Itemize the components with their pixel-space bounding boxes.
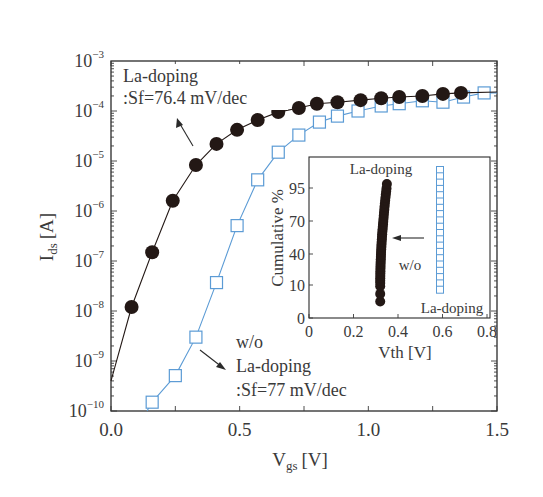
x-tick-label: 0.0 bbox=[99, 419, 123, 440]
y-tick-label: 10−7 bbox=[74, 248, 104, 271]
chart: 10−310−410−510−610−710−810−910−10 0.00.5… bbox=[0, 0, 543, 497]
data-point bbox=[230, 123, 244, 137]
inset-label-mid: w/o bbox=[399, 257, 422, 273]
inset-y-tick-label: 10 bbox=[289, 277, 305, 294]
inset-y-tick-label: 95 bbox=[289, 180, 305, 197]
y-tick-label: 10−8 bbox=[74, 298, 104, 321]
data-point bbox=[330, 95, 344, 109]
data-point bbox=[145, 245, 159, 259]
data-point bbox=[210, 137, 224, 151]
data-point bbox=[392, 90, 406, 104]
inset-y-tick-label: 40 bbox=[289, 246, 305, 263]
data-point bbox=[331, 110, 343, 122]
y-tick-label: 10−10 bbox=[69, 398, 105, 421]
y-tick-label: 10−9 bbox=[74, 348, 104, 371]
x-tick-label: 1.5 bbox=[485, 419, 509, 440]
svg-text:La-doping: La-doping bbox=[123, 66, 198, 86]
y-tick-label: 10−3 bbox=[74, 48, 104, 71]
y-axis-tick-labels: 10−310−410−510−610−710−810−910−10 bbox=[69, 48, 105, 421]
inset-label-top: La-doping bbox=[350, 161, 413, 177]
x-axis-tick-labels: 0.00.51.01.5 bbox=[99, 419, 509, 440]
data-point bbox=[190, 331, 202, 343]
data-point bbox=[231, 220, 243, 232]
inset-chart: 00.20.40.60.8 010407095 Vth [V] Cumulati… bbox=[268, 157, 497, 362]
annotation-la-doping: La-doping :Sf=76.4 mV/dec bbox=[118, 64, 288, 110]
data-point bbox=[415, 89, 429, 103]
data-point bbox=[436, 87, 450, 101]
data-point bbox=[354, 93, 368, 107]
annotation-wo-la-doping: w/o La-doping :Sf=77 mV/dec bbox=[236, 332, 347, 400]
arrow-la-doping-icon bbox=[176, 118, 193, 146]
data-point bbox=[169, 370, 181, 382]
data-point bbox=[293, 129, 305, 141]
x-tick-label: 0.5 bbox=[228, 419, 252, 440]
arrow-wo-la-doping-icon bbox=[200, 350, 226, 370]
svg-text:w/o: w/o bbox=[236, 332, 263, 352]
svg-text::Sf=77 mV/dec: :Sf=77 mV/dec bbox=[236, 380, 347, 400]
inset-series-wo-la-doping bbox=[437, 167, 444, 294]
x-axis-label: Vgs[V] bbox=[272, 449, 328, 473]
inset-x-tick-label: 0.8 bbox=[477, 323, 497, 340]
inset-y-axis-label: Cumulative % bbox=[268, 189, 287, 287]
data-point bbox=[125, 300, 139, 314]
x-tick-label: 1.0 bbox=[356, 419, 380, 440]
inset-x-tick-label: 0 bbox=[305, 323, 313, 340]
data-point bbox=[211, 277, 223, 289]
data-point bbox=[146, 396, 158, 408]
y-axis-label: Ids[A] bbox=[36, 213, 60, 261]
inset-x-tick-label: 0.2 bbox=[344, 323, 364, 340]
data-point bbox=[166, 194, 180, 208]
y-tick-label: 10−5 bbox=[74, 148, 104, 171]
y-tick-label: 10−6 bbox=[74, 198, 104, 221]
y-tick-label: 10−4 bbox=[74, 98, 104, 121]
inset-x-axis-label: Vth [V] bbox=[378, 343, 431, 362]
data-point bbox=[251, 113, 265, 127]
data-point bbox=[454, 86, 468, 100]
data-point bbox=[252, 174, 264, 186]
data-point bbox=[189, 158, 203, 172]
data-point bbox=[272, 146, 284, 158]
inset-x-tick-label: 0.6 bbox=[433, 323, 453, 340]
data-point bbox=[313, 116, 325, 128]
data-point bbox=[310, 97, 324, 111]
data-point bbox=[374, 91, 388, 105]
svg-text::Sf=76.4 mV/dec: :Sf=76.4 mV/dec bbox=[123, 88, 247, 108]
inset-y-tick-label: 70 bbox=[289, 213, 305, 230]
data-point bbox=[292, 101, 306, 115]
svg-text:La-doping: La-doping bbox=[236, 356, 311, 376]
inset-label-bottom: La-doping bbox=[421, 300, 484, 316]
inset-x-tick-label: 0.4 bbox=[388, 323, 408, 340]
inset-y-tick-label: 0 bbox=[297, 310, 305, 327]
